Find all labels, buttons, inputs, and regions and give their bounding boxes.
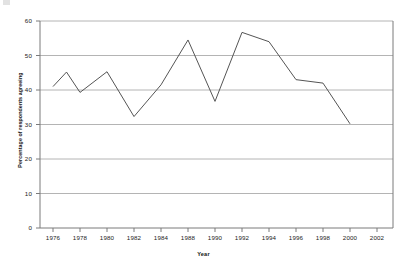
gridlines xyxy=(40,21,393,194)
x-tick-label: 2000 xyxy=(336,234,364,242)
x-tick-label: 1978 xyxy=(66,234,94,242)
x-tick-label: 1996 xyxy=(282,234,310,242)
x-axis-title: Year xyxy=(0,251,407,257)
x-tick-label: 1994 xyxy=(255,234,283,242)
y-axis-title: Percentage of respondents agreeing xyxy=(17,30,23,210)
x-tick-label: 1982 xyxy=(120,234,148,242)
y-tick-label: 60 xyxy=(12,17,32,24)
line-chart-figure: 60 50 40 30 20 10 0 1976 1978 1980 1982 … xyxy=(0,0,407,272)
x-tick-label: 1988 xyxy=(174,234,202,242)
x-axis xyxy=(40,21,393,232)
data-series-line xyxy=(53,32,350,123)
x-tick-label: 1980 xyxy=(93,234,121,242)
x-tick-label: 2002 xyxy=(363,234,391,242)
y-axis xyxy=(36,21,40,228)
x-tick-label: 1976 xyxy=(39,234,67,242)
x-tick-label: 1984 xyxy=(147,234,175,242)
x-tick-label: 1998 xyxy=(309,234,337,242)
plot-area xyxy=(0,0,407,272)
x-tick-label: 1992 xyxy=(228,234,256,242)
y-tick-label: 0 xyxy=(12,224,32,231)
x-tick-label: 1990 xyxy=(201,234,229,242)
